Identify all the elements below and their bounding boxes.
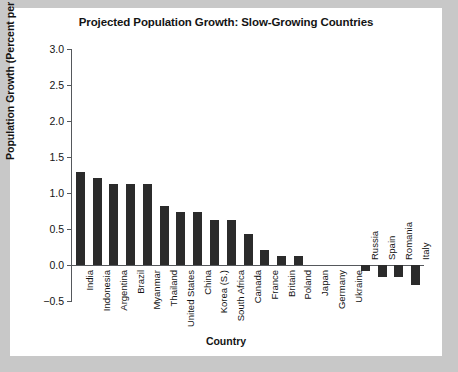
y-axis-tick: 3.0 <box>67 49 72 50</box>
x-axis-tick-label: France <box>269 270 280 300</box>
x-axis-tick-label: Germany <box>336 270 347 309</box>
bar <box>244 234 253 265</box>
x-axis-tick-label: Russia <box>369 231 380 260</box>
bar <box>93 178 102 265</box>
y-axis-tick-label: 0.5 <box>49 223 64 235</box>
y-axis-tick-label: 2.0 <box>49 115 64 127</box>
x-axis-tick-label: China <box>202 270 213 295</box>
x-axis-tick-label: South Africa <box>235 270 246 321</box>
bar <box>76 172 85 265</box>
y-axis-tick-label: 0.0 <box>49 259 64 271</box>
y-axis-tick: 0.0 <box>67 265 72 266</box>
y-axis-tick: 1.0 <box>67 193 72 194</box>
y-axis-tick-label: 3.0 <box>49 43 64 55</box>
x-axis-tick-label: Britain <box>286 270 297 297</box>
plot-area: 3.02.52.01.51.00.50.0−0.5 IndiaIndonesia… <box>72 49 424 301</box>
bar <box>411 265 420 285</box>
x-axis-label: Country <box>10 335 442 347</box>
x-axis-tick-label: United States <box>185 270 196 327</box>
y-axis-label: Population Growth (Percent per Year) <box>4 0 16 160</box>
x-axis-tick-label: Myanmar <box>151 270 162 310</box>
x-axis-tick-label: Brazil <box>135 270 146 294</box>
chart-title: Projected Population Growth: Slow-Growin… <box>10 16 442 28</box>
y-axis-tick: 2.5 <box>67 85 72 86</box>
x-axis-tick-label: Japan <box>319 270 330 296</box>
y-axis-tick-label: 1.5 <box>49 151 64 163</box>
chart-card: Projected Population Growth: Slow-Growin… <box>10 8 442 356</box>
x-axis-tick-label: Ukraine <box>353 270 364 303</box>
bar <box>260 250 269 265</box>
x-axis-tick-label: Thailand <box>168 270 179 306</box>
bar <box>126 184 135 265</box>
x-axis-tick-label: Argentina <box>118 270 129 311</box>
x-axis-tick-label: Italy <box>420 243 431 260</box>
bar <box>210 220 219 265</box>
y-axis-tick: −0.5 <box>67 301 72 302</box>
x-axis-tick-label: Poland <box>302 270 313 300</box>
y-axis-tick: 1.5 <box>67 157 72 158</box>
bar <box>109 184 118 265</box>
x-axis-tick-label: Romania <box>403 222 414 260</box>
bar <box>176 212 185 265</box>
bar <box>394 265 403 277</box>
bar <box>160 206 169 265</box>
x-axis-tick-label: Spain <box>386 236 397 260</box>
bar <box>143 184 152 265</box>
x-axis-tick-label: Indonesia <box>101 270 112 311</box>
x-axis-tick-label: Canada <box>252 270 263 303</box>
y-axis-tick: 0.5 <box>67 229 72 230</box>
x-axis-tick-label: Korea (S.) <box>218 270 229 313</box>
bar <box>294 256 303 265</box>
bar <box>193 212 202 265</box>
y-axis-tick-label: 2.5 <box>49 79 64 91</box>
y-axis-tick: 2.0 <box>67 121 72 122</box>
x-axis-tick-label: India <box>84 270 95 291</box>
bar <box>277 256 286 265</box>
bar <box>227 220 236 265</box>
y-axis-tick-label: 1.0 <box>49 187 64 199</box>
y-axis-tick-label: −0.5 <box>43 295 64 307</box>
bar <box>378 265 387 277</box>
